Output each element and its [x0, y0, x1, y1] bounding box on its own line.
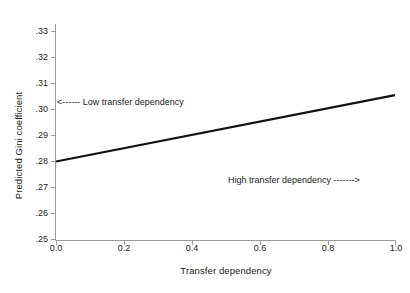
chart-figure: Predicted Gini coefficient Transfer depe…	[0, 0, 410, 293]
x-tick-marks	[57, 241, 396, 246]
annotation-high-transfer-dependency: High transfer dependency ------->	[228, 176, 360, 185]
annotation-low-transfer-dependency: <------ Low transfer dependency	[57, 98, 184, 107]
y-tick-marks	[51, 32, 56, 240]
plot-area	[0, 0, 410, 293]
